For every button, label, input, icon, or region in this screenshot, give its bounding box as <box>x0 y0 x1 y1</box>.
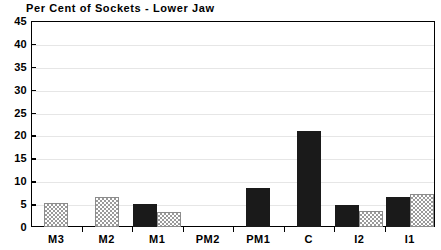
y-axis-labels: 051015202530354045 <box>0 21 27 227</box>
y-tick-label: 45 <box>3 15 27 27</box>
x-tick-label-m1: M1 <box>149 233 165 245</box>
x-tick-mark <box>132 227 133 232</box>
x-tick-mark <box>284 227 285 232</box>
x-tick-label-i2: I2 <box>354 233 364 245</box>
y-tick-label: 25 <box>3 107 27 119</box>
x-tick-mark <box>334 227 335 232</box>
bar-solid-c <box>297 131 321 227</box>
y-tick-label: 35 <box>3 61 27 73</box>
bar-hatched-m2 <box>95 197 119 227</box>
x-tick-mark <box>233 227 234 232</box>
x-tick-label-c: C <box>305 233 313 245</box>
y-tick-label: 15 <box>3 152 27 164</box>
bar-solid-i1 <box>386 197 410 227</box>
bar-solid-m1 <box>133 204 157 227</box>
bars-layer <box>31 21 435 227</box>
x-tick-mark <box>385 227 386 232</box>
x-axis-labels: M3M2M1PM2PM1CI2I1 <box>31 233 435 250</box>
x-tick-label-m2: M2 <box>99 233 115 245</box>
x-tick-label-pm2: PM2 <box>196 233 220 245</box>
bar-hatched-i1 <box>410 194 434 227</box>
bar-chart: Per Cent of Sockets - Lower Jaw 05101520… <box>0 0 441 250</box>
x-tick-label-m3: M3 <box>48 233 64 245</box>
bar-hatched-i2 <box>359 211 383 227</box>
y-tick-label: 0 <box>3 221 27 233</box>
x-tick-mark <box>82 227 83 232</box>
y-tick-label: 5 <box>3 198 27 210</box>
y-tick-label: 30 <box>3 84 27 96</box>
y-tick-label: 40 <box>3 38 27 50</box>
bar-solid-i2 <box>335 205 359 227</box>
bar-hatched-m3 <box>44 203 68 227</box>
y-tick-label: 10 <box>3 175 27 187</box>
x-tick-label-pm1: PM1 <box>246 233 270 245</box>
bar-hatched-m1 <box>157 212 181 227</box>
chart-title: Per Cent of Sockets - Lower Jaw <box>26 2 215 14</box>
bar-solid-pm1 <box>246 188 270 227</box>
y-tick-label: 20 <box>3 129 27 141</box>
x-tick-mark <box>183 227 184 232</box>
x-tick-label-i1: I1 <box>405 233 415 245</box>
